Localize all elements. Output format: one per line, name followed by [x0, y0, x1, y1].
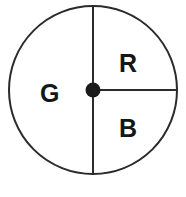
sector-label-b: B: [119, 116, 137, 141]
center-dot-marker: [86, 83, 101, 98]
circle-sector-diagram: G R B: [0, 0, 186, 197]
sector-label-g: G: [40, 81, 59, 106]
caption-strip: [0, 185, 186, 197]
sector-label-r: R: [119, 51, 137, 76]
pie-chart-svg: [0, 0, 186, 197]
